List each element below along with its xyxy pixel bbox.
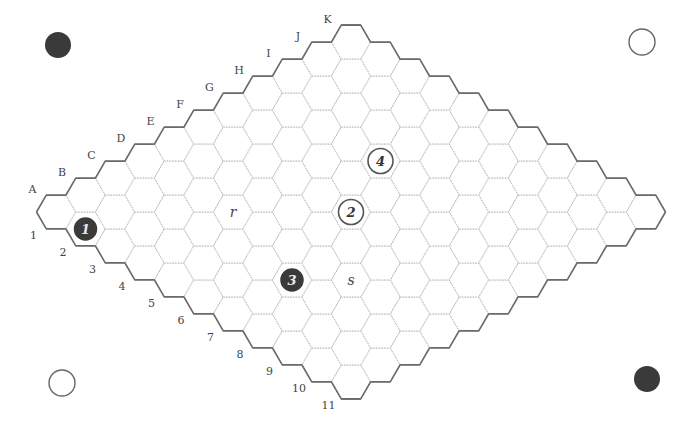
corner-bottom-right-black-circle-icon bbox=[634, 366, 660, 392]
column-label: E bbox=[146, 115, 154, 128]
row-label: 9 bbox=[266, 365, 273, 378]
stone-label: 4 bbox=[376, 154, 385, 169]
row-label: 2 bbox=[60, 246, 67, 259]
corner-bottom-left-white-circle-icon bbox=[49, 370, 75, 396]
column-label: H bbox=[234, 64, 244, 77]
column-label: G bbox=[205, 81, 214, 94]
row-label: 4 bbox=[119, 280, 126, 293]
column-label: B bbox=[58, 166, 66, 179]
row-label: 5 bbox=[148, 297, 155, 310]
column-label: I bbox=[266, 47, 270, 60]
row-label: 3 bbox=[89, 263, 96, 276]
stone-2[interactable]: 2 bbox=[339, 200, 364, 225]
column-label: D bbox=[117, 132, 126, 145]
column-label: C bbox=[87, 149, 95, 162]
stone-1[interactable]: 1 bbox=[73, 217, 98, 242]
column-label: F bbox=[176, 98, 184, 111]
cell-mark-s: s bbox=[347, 272, 354, 288]
row-label: 7 bbox=[207, 331, 214, 344]
stone-label: 1 bbox=[81, 222, 90, 237]
hex-board: ABCDEFGHIJK1234567891011 rs 1234 bbox=[0, 0, 699, 426]
stone-4[interactable]: 4 bbox=[368, 149, 393, 174]
corner-top-left-black-circle-icon bbox=[45, 32, 71, 58]
column-label: K bbox=[323, 13, 332, 26]
stone-label: 2 bbox=[345, 205, 355, 220]
corner-top-right-white-circle-icon bbox=[629, 29, 655, 55]
row-label: 10 bbox=[292, 382, 306, 395]
stone-3[interactable]: 3 bbox=[280, 268, 305, 293]
column-label: J bbox=[295, 30, 300, 43]
row-label: 11 bbox=[322, 399, 336, 412]
row-label: 8 bbox=[237, 348, 244, 361]
column-label: A bbox=[28, 183, 38, 196]
row-label: 6 bbox=[178, 314, 185, 327]
row-label: 1 bbox=[30, 229, 37, 242]
stone-label: 3 bbox=[287, 273, 296, 288]
